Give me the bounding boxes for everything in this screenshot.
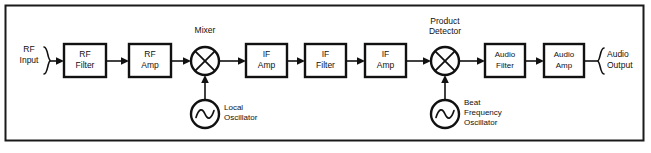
- block-rf-filter: RF Filter: [64, 44, 106, 77]
- link-mixer-to-if-amp-1: [219, 57, 246, 65]
- beat-frequency-oscillator-symbol: [431, 100, 459, 128]
- link-beat-frequency-oscillator-to-product-detector: [441, 75, 449, 100]
- block-diagram-figure: RF Input RF Filter RF Amp: [0, 0, 651, 153]
- mixer-label: Mixer: [195, 25, 216, 35]
- mixer-symbol: [191, 47, 219, 75]
- rf-input-label-line1: RF: [23, 44, 34, 54]
- link-local-oscillator-to-mixer: [201, 75, 209, 100]
- audio-output-label-line1: Audio: [607, 49, 629, 59]
- block-audio-amp-label-line2: Amp: [556, 61, 573, 70]
- block-audio-amp: Audio Amp: [544, 44, 584, 77]
- link-if-amp-2-to-product-detector: [406, 57, 431, 65]
- product-detector-label-line1: Product: [430, 16, 460, 26]
- block-if-amp-2: IF Amp: [365, 44, 406, 77]
- block-audio-filter-label-line2: Filter: [496, 61, 514, 70]
- beat-frequency-oscillator-label-line3: Oscillator: [464, 118, 498, 127]
- audio-output-terminal: Audio Output: [584, 48, 633, 74]
- block-if-amp-1-label-line2: Amp: [258, 60, 276, 70]
- block-if-filter-label-line2: Filter: [316, 60, 335, 70]
- block-if-filter-label-line1: IF: [322, 49, 330, 59]
- rf-input-label-line2: Input: [20, 55, 40, 65]
- block-rf-amp: RF Amp: [129, 44, 171, 77]
- product-detector-label-line2: Detector: [429, 26, 461, 36]
- block-if-amp-2-label-line2: Amp: [377, 60, 395, 70]
- block-if-amp-1: IF Amp: [246, 44, 287, 77]
- block-rf-filter-label-line1: RF: [79, 49, 90, 59]
- block-rf-filter-label-line2: Filter: [76, 60, 95, 70]
- product-detector-symbol: [431, 47, 459, 75]
- beat-frequency-oscillator-label-line1: Beat: [464, 98, 481, 107]
- local-oscillator-symbol: [191, 100, 219, 128]
- local-oscillator-label-line1: Local: [224, 103, 243, 112]
- link-rf-amp-to-mixer: [171, 57, 191, 65]
- block-rf-amp-label-line1: RF: [144, 49, 155, 59]
- local-oscillator-label-line2: Oscillator: [224, 113, 258, 122]
- block-if-amp-2-label-line1: IF: [382, 49, 390, 59]
- link-if-amp-1-to-if-filter: [287, 57, 305, 65]
- rf-input-terminal: RF Input: [20, 44, 64, 74]
- link-rf-filter-to-rf-amp: [106, 57, 129, 65]
- block-if-filter: IF Filter: [305, 44, 346, 77]
- block-rf-amp-label-line2: Amp: [141, 60, 159, 70]
- block-audio-filter-label-line1: Audio: [495, 50, 516, 59]
- block-audio-amp-label-line1: Audio: [554, 50, 575, 59]
- audio-output-label-line2: Output: [607, 60, 633, 70]
- link-if-filter-to-if-amp-2: [346, 57, 365, 65]
- link-audio-filter-to-audio-amp: [525, 57, 544, 65]
- block-if-amp-1-label-line1: IF: [263, 49, 271, 59]
- diagram-canvas: RF Input RF Filter RF Amp: [0, 0, 651, 153]
- block-audio-filter: Audio Filter: [485, 44, 525, 77]
- link-product-detector-to-audio-filter: [459, 57, 485, 65]
- beat-frequency-oscillator-label-line2: Frequency: [464, 108, 502, 117]
